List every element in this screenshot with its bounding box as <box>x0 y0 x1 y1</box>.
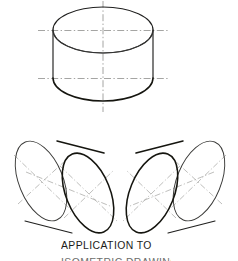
right-tilted-cylinder-group <box>116 134 235 240</box>
technical-drawing-figure: APPLICATION TO ISOMETRIC DRAWING <box>0 0 238 261</box>
left-cylinder-top-edge <box>57 141 104 153</box>
figure-caption: APPLICATION TO <box>61 239 152 251</box>
vertical-cylinder-group <box>38 1 170 112</box>
right-cylinder-top-edge <box>136 141 183 153</box>
isometric-cylinder-drawing <box>0 0 238 261</box>
figure-caption-next-line-clipped: ISOMETRIC DRAWING <box>61 256 171 261</box>
left-cylinder-bottom-edge <box>25 221 72 233</box>
right-cylinder-bottom-edge <box>168 221 215 233</box>
left-tilted-cylinder-group <box>5 134 124 240</box>
